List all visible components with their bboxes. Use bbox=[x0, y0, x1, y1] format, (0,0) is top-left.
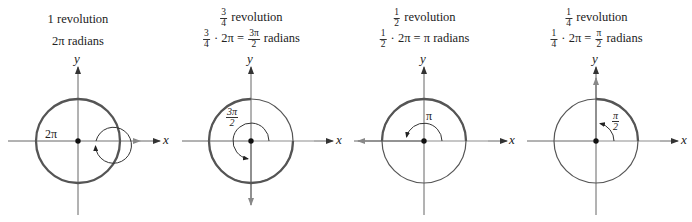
origin-point bbox=[421, 138, 426, 143]
diagram-canvas bbox=[0, 0, 692, 222]
panel4-y-label: y bbox=[592, 51, 598, 67]
panel3-angle-label: π bbox=[426, 109, 432, 124]
panel2-y-label: y bbox=[247, 51, 253, 67]
panel1-angle-label: 2π bbox=[45, 127, 57, 142]
panel1-y-label: y bbox=[74, 51, 80, 67]
origin-point bbox=[75, 138, 80, 143]
origin-point bbox=[248, 138, 253, 143]
panel2-diagram bbox=[182, 67, 333, 205]
panel1-x-label: x bbox=[163, 132, 169, 148]
panel3-x-label: x bbox=[509, 132, 515, 148]
panel3-y-label: y bbox=[420, 51, 426, 67]
panel4-diagram bbox=[527, 67, 678, 215]
rotation-arrow-icon bbox=[96, 127, 132, 163]
panel3-diagram bbox=[354, 67, 507, 215]
panel2-angle-label: 3π2 bbox=[225, 107, 239, 128]
panel4-x-label: x bbox=[681, 132, 687, 148]
panel1-diagram bbox=[8, 67, 160, 215]
origin-point bbox=[593, 138, 598, 143]
panel2-x-label: x bbox=[336, 132, 342, 148]
panel4-angle-label: π2 bbox=[611, 111, 620, 132]
